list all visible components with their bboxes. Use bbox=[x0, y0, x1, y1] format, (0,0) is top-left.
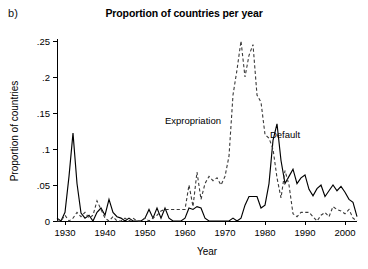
x-axis-tick-label: 1940 bbox=[94, 227, 115, 238]
x-axis-tick-label: 1980 bbox=[254, 227, 275, 238]
y-axis-tick-label: 0 bbox=[45, 216, 50, 227]
series-annotation-default: Default bbox=[270, 129, 300, 140]
x-axis-tick-label: 2000 bbox=[334, 227, 355, 238]
series-annotations: ExpropriationDefault bbox=[165, 115, 300, 140]
y-axis-tick-label: .05 bbox=[37, 180, 50, 191]
x-axis-tick-label: 1930 bbox=[54, 227, 75, 238]
series-annotation-expropriation: Expropriation bbox=[165, 115, 221, 126]
y-axis-title: Proportion of countries bbox=[9, 81, 20, 182]
chart-figure: b) Proportion of countries per year 0.05… bbox=[0, 0, 368, 269]
x-axis-tick-label: 1990 bbox=[294, 227, 315, 238]
data-series bbox=[57, 41, 357, 221]
series-line-default bbox=[57, 124, 357, 221]
axes: 0.05.1.15.2.2519301940195019601970198019… bbox=[9, 36, 357, 258]
x-axis-title: Year bbox=[197, 246, 218, 257]
y-axis-tick-label: .1 bbox=[42, 144, 50, 155]
y-axis-tick-label: .15 bbox=[37, 108, 50, 119]
x-axis-tick-label: 1950 bbox=[134, 227, 155, 238]
y-axis-tick-label: .25 bbox=[37, 36, 50, 47]
x-axis-tick-label: 1960 bbox=[174, 227, 195, 238]
line-chart-plot: 0.05.1.15.2.2519301940195019601970198019… bbox=[0, 0, 368, 269]
y-axis-tick-label: .2 bbox=[42, 72, 50, 83]
x-axis-tick-label: 1970 bbox=[214, 227, 235, 238]
